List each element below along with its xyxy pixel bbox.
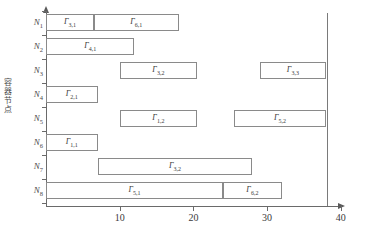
y-tick-7: [42, 155, 47, 156]
y-tick-6: [42, 131, 47, 132]
y-axis-label-char-2: 节: [1, 96, 15, 105]
y-tick-9: [42, 203, 47, 204]
x-tick-label-30: 30: [252, 212, 282, 223]
bar-label: Γ2,1: [66, 89, 78, 100]
bar-label: Γ1,2: [152, 113, 164, 124]
threshold-line: [327, 13, 328, 206]
bar-N8-1[interactable]: Γ5,1: [46, 182, 223, 199]
x-tick-30: [267, 206, 268, 211]
bar-N1-1[interactable]: Γ3,1: [46, 14, 94, 31]
category-label-N2: N2: [23, 41, 43, 53]
y-axis-label-char-1: 器: [1, 87, 15, 96]
x-tick-label-20: 20: [178, 212, 208, 223]
category-label-N8: N8: [23, 185, 43, 197]
y-tick-8: [42, 179, 47, 180]
y-axis-label: 容器节点: [1, 78, 15, 114]
bar-N4-1[interactable]: Γ2,1: [46, 86, 98, 103]
category-label-N3: N3: [23, 65, 43, 77]
bar-N8-2[interactable]: Γ6,2: [223, 182, 282, 199]
bar-label: Γ6,1: [130, 17, 142, 28]
bar-label: Γ3,2: [152, 65, 164, 76]
bar-label: Γ3,1: [64, 17, 76, 28]
x-tick-20: [193, 206, 194, 211]
category-label-N1: N1: [23, 17, 43, 29]
x-tick-40: [341, 206, 342, 211]
bar-label: Γ3,3: [287, 65, 299, 76]
bar-label: Γ5,1: [128, 185, 140, 196]
bar-label: Γ3,2: [169, 161, 181, 172]
gantt-chart: 容器节点 10203040 N1N2N3N4N5N6N7N8 Γ3,1Γ6,1Γ…: [0, 0, 378, 245]
y-tick-3: [42, 59, 47, 60]
category-label-N6: N6: [23, 137, 43, 149]
y-tick-2: [42, 35, 47, 36]
x-axis-line: [46, 206, 338, 207]
bar-label: Γ4,1: [84, 41, 96, 52]
bar-N2-1[interactable]: Γ4,1: [46, 38, 134, 55]
bar-label: Γ6,2: [246, 185, 258, 196]
bar-N7-1[interactable]: Γ3,2: [98, 158, 253, 175]
x-tick-10: [120, 206, 121, 211]
bar-N5-2[interactable]: Γ5,2: [234, 110, 326, 127]
bar-label: Γ5,2: [274, 113, 286, 124]
category-label-N5: N5: [23, 113, 43, 125]
bar-N5-1[interactable]: Γ1,2: [120, 110, 197, 127]
bar-N1-2[interactable]: Γ6,1: [94, 14, 179, 31]
x-tick-label-10: 10: [105, 212, 135, 223]
category-label-N7: N7: [23, 161, 43, 173]
y-tick-1: [42, 11, 47, 12]
y-tick-5: [42, 107, 47, 108]
y-axis-label-char-3: 点: [1, 105, 15, 114]
bar-N6-1[interactable]: Γ1,1: [46, 134, 98, 151]
bar-N3-1[interactable]: Γ3,2: [120, 62, 197, 79]
y-axis-label-char-0: 容: [1, 78, 15, 87]
bar-N3-2[interactable]: Γ3,3: [260, 62, 326, 79]
y-tick-4: [42, 83, 47, 84]
x-tick-label-40: 40: [326, 212, 356, 223]
category-label-N4: N4: [23, 89, 43, 101]
bar-label: Γ1,1: [66, 137, 78, 148]
